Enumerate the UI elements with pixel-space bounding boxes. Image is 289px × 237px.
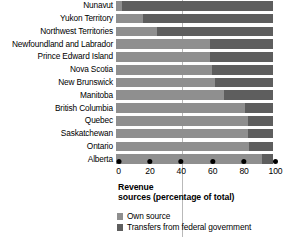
bar-segment-own-source bbox=[116, 116, 248, 126]
bar-segment-transfers bbox=[224, 90, 273, 100]
x-axis-tick-label: 60 bbox=[208, 167, 217, 176]
row-label-new-brunswick: New Brunswick bbox=[0, 78, 116, 87]
stacked-bar bbox=[116, 39, 273, 49]
table-row: New Brunswick bbox=[0, 77, 289, 89]
row-label-british-columbia: British Columbia bbox=[0, 104, 116, 113]
bar-segment-own-source bbox=[116, 129, 248, 139]
tick-dot-icon bbox=[147, 159, 152, 164]
x-axis-tick-40: 40 bbox=[177, 159, 186, 176]
stacked-bar bbox=[116, 78, 273, 88]
chart-rows: NunavutYukon TerritoryNorthwest Territor… bbox=[0, 0, 289, 166]
table-row: Nova Scotia bbox=[0, 64, 289, 76]
tick-dot-icon bbox=[116, 159, 121, 164]
x-axis-tick-label: 80 bbox=[239, 167, 248, 176]
bar-segment-transfers bbox=[157, 27, 273, 37]
table-row: Nunavut bbox=[0, 0, 289, 12]
row-label-prince-edward-island: Prince Edward Island bbox=[0, 52, 116, 61]
chart-legend: Own sourceTransfers from federal governm… bbox=[117, 211, 289, 233]
tick-dot-icon bbox=[273, 159, 278, 164]
table-row: Manitoba bbox=[0, 89, 289, 101]
bar-segment-own-source bbox=[116, 27, 157, 37]
bar-segment-own-source bbox=[116, 90, 224, 100]
bar-segment-own-source bbox=[116, 65, 212, 75]
x-axis-tick-100: 100 bbox=[268, 159, 282, 176]
stacked-bar bbox=[116, 129, 273, 139]
bar-segment-transfers bbox=[248, 129, 273, 139]
bar-segment-own-source bbox=[116, 78, 215, 88]
tick-dot-icon bbox=[210, 159, 215, 164]
chart-title-line-2: sources (percentage of total) bbox=[118, 193, 289, 203]
stacked-bar bbox=[116, 90, 273, 100]
stacked-bar bbox=[116, 116, 273, 126]
legend-label: Transfers from federal government bbox=[127, 223, 251, 232]
legend-swatch-icon bbox=[117, 224, 123, 231]
table-row: Quebec bbox=[0, 115, 289, 127]
bar-segment-transfers bbox=[215, 78, 273, 88]
stacked-bar bbox=[116, 65, 273, 75]
bar-segment-transfers bbox=[122, 1, 273, 11]
bar-segment-own-source bbox=[116, 142, 249, 152]
bar-segment-transfers bbox=[210, 39, 273, 49]
bar-segment-transfers bbox=[210, 52, 273, 62]
table-row: Newfoundland and Labrador bbox=[0, 38, 289, 50]
x-axis-tick-20: 20 bbox=[145, 159, 154, 176]
table-row: Saskatchewan bbox=[0, 128, 289, 140]
row-label-northwest-territories: Northwest Territories bbox=[0, 27, 116, 36]
x-axis-tick-0: 0 bbox=[116, 159, 121, 176]
x-axis-tick-60: 60 bbox=[208, 159, 217, 176]
table-row: Prince Edward Island bbox=[0, 51, 289, 63]
stacked-bar bbox=[116, 103, 273, 113]
legend-swatch-icon bbox=[117, 213, 123, 220]
stacked-bar bbox=[116, 14, 273, 24]
row-label-nunavut: Nunavut bbox=[0, 1, 116, 10]
bar-segment-own-source bbox=[116, 14, 143, 24]
table-row: Ontario bbox=[0, 141, 289, 153]
bar-segment-transfers bbox=[249, 142, 273, 152]
x-axis-tick-label: 40 bbox=[177, 167, 186, 176]
row-label-yukon-territory: Yukon Territory bbox=[0, 14, 116, 23]
bar-segment-transfers bbox=[248, 116, 273, 126]
bar-segment-own-source bbox=[116, 103, 245, 113]
table-row: Northwest Territories bbox=[0, 26, 289, 38]
stacked-bar bbox=[116, 1, 273, 11]
row-label-newfoundland-and-labrador: Newfoundland and Labrador bbox=[0, 40, 116, 49]
x-axis-tick-80: 80 bbox=[239, 159, 248, 176]
bar-segment-transfers bbox=[245, 103, 273, 113]
bar-segment-transfers bbox=[212, 65, 273, 75]
legend-item-transfer: Transfers from federal government bbox=[117, 222, 289, 233]
x-axis-tick-label: 20 bbox=[145, 167, 154, 176]
table-row: British Columbia bbox=[0, 102, 289, 114]
bar-segment-own-source bbox=[116, 39, 210, 49]
bar-segment-transfers bbox=[143, 14, 273, 24]
chart-title: Revenue sources (percentage of total) bbox=[118, 183, 289, 202]
table-row: Yukon Territory bbox=[0, 13, 289, 25]
row-label-saskatchewan: Saskatchewan bbox=[0, 129, 116, 138]
bar-segment-own-source bbox=[116, 52, 210, 62]
stacked-bar bbox=[116, 52, 273, 62]
legend-item-own: Own source bbox=[117, 211, 289, 222]
tick-dot-icon bbox=[179, 159, 184, 164]
tick-dot-icon bbox=[242, 159, 247, 164]
x-axis-tick-label: 100 bbox=[268, 167, 282, 176]
legend-label: Own source bbox=[127, 212, 170, 221]
stacked-bar bbox=[116, 27, 273, 37]
stacked-bar-chart: NunavutYukon TerritoryNorthwest Territor… bbox=[0, 0, 289, 237]
row-label-ontario: Ontario bbox=[0, 142, 116, 151]
row-label-quebec: Quebec bbox=[0, 116, 116, 125]
x-axis-tick-label: 0 bbox=[116, 167, 121, 176]
stacked-bar bbox=[116, 142, 273, 152]
row-label-manitoba: Manitoba bbox=[0, 91, 116, 100]
row-label-nova-scotia: Nova Scotia bbox=[0, 65, 116, 74]
